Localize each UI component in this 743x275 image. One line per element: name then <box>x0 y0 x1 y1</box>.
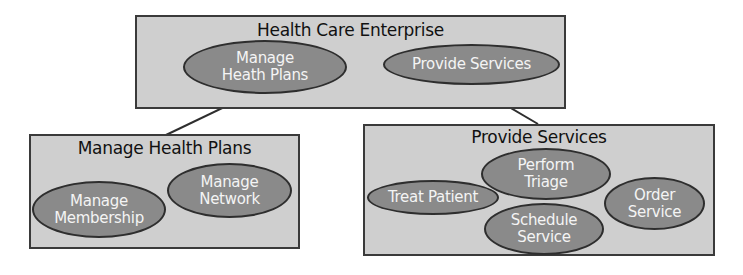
box-title: Provide Services <box>365 127 713 147</box>
box-title: Health Care Enterprise <box>137 20 564 40</box>
manage-membership-node[interactable]: Manage Membership <box>32 181 166 238</box>
manage-heath-plans-node[interactable]: Manage Heath Plans <box>183 40 347 94</box>
order-service-node[interactable]: Order Service <box>604 177 705 230</box>
schedule-service-node[interactable]: Schedule Service <box>484 203 604 255</box>
provide-services-node[interactable]: Provide Services <box>383 44 560 85</box>
treat-patient-node[interactable]: Treat Patient <box>367 180 499 215</box>
manage-network-node[interactable]: Manage Network <box>167 163 292 218</box>
perform-triage-node[interactable]: Perform Triage <box>481 148 611 200</box>
box-title: Manage Health Plans <box>31 138 298 158</box>
